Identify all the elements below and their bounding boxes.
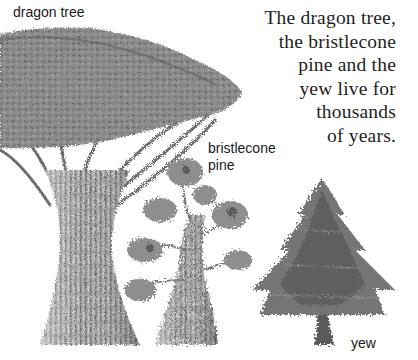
caption-line: pine and the <box>206 53 396 77</box>
caption-line: of years. <box>206 124 396 148</box>
caption-line: thousands <box>206 100 396 124</box>
caption-line: yew live for <box>206 77 396 101</box>
caption-line: the bristlecone <box>206 30 396 54</box>
caption-line: The dragon tree, <box>206 6 396 30</box>
dragon-tree-label: dragon tree <box>13 4 85 21</box>
yew-label: yew <box>351 335 376 352</box>
bristlecone-label-line2: pine <box>208 157 276 174</box>
caption-text: The dragon tree, the bristlecone pine an… <box>206 6 396 147</box>
illustration-page: dragon tree bristlecone pine yew The dra… <box>0 0 418 360</box>
yew <box>252 178 395 345</box>
